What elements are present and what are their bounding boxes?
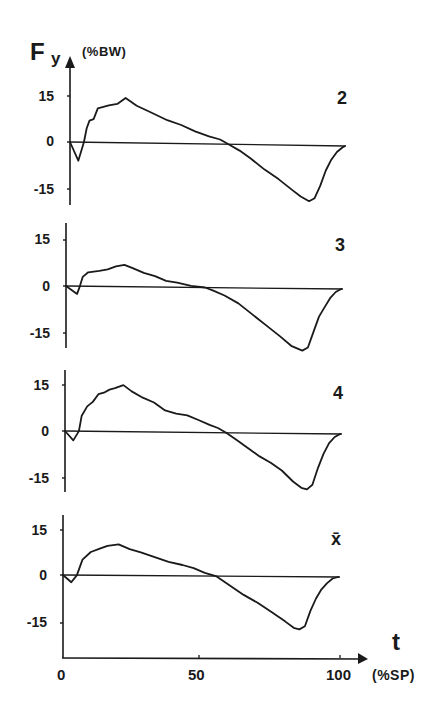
- y-tick-minus15: -15: [20, 326, 50, 340]
- y-axis-symbol: F: [30, 40, 45, 64]
- x-tick-50: 50: [188, 667, 205, 682]
- x-tick-0: 0: [57, 667, 65, 682]
- force-curve: [70, 98, 345, 201]
- x-axis-unit: (%SP): [372, 668, 415, 682]
- panel-label-4: 4: [333, 384, 343, 402]
- y-axis-unit: (%BW): [82, 45, 126, 58]
- x-axis-line: [62, 658, 360, 659]
- panel-label-3: 3: [335, 236, 345, 254]
- force-time-figure: F y (%BW) 15 0 -15 2 15 0 -15 3 15 0 -15…: [0, 0, 440, 720]
- x-axis-arrow-icon: [358, 653, 368, 664]
- force-curve: [63, 544, 338, 629]
- y-tick-0: 0: [20, 279, 50, 293]
- plot-canvas: [0, 0, 440, 720]
- zero-baseline: [70, 142, 345, 146]
- y-axis-subscript: y: [51, 50, 60, 67]
- y-tick-minus15: -15: [17, 615, 47, 629]
- y-tick-0: 0: [24, 134, 54, 148]
- y-tick-15: 15: [24, 89, 54, 103]
- zero-baseline: [63, 575, 340, 577]
- y-tick-0: 0: [19, 424, 49, 438]
- y-axis-arrow-icon: [65, 56, 75, 68]
- panel-label-mean: x̄: [331, 530, 341, 548]
- y-tick-15: 15: [20, 232, 50, 246]
- y-tick-minus15: -15: [19, 471, 49, 485]
- panel-label-2: 2: [337, 89, 347, 107]
- y-tick-minus15: -15: [24, 182, 54, 196]
- force-curve: [65, 385, 340, 489]
- y-tick-0: 0: [17, 568, 47, 582]
- y-tick-15: 15: [19, 378, 49, 392]
- zero-baseline: [65, 431, 342, 434]
- y-tick-15: 15: [17, 523, 47, 537]
- force-curve: [66, 265, 341, 351]
- x-axis-symbol: t: [392, 630, 400, 654]
- x-tick-100: 100: [326, 667, 351, 682]
